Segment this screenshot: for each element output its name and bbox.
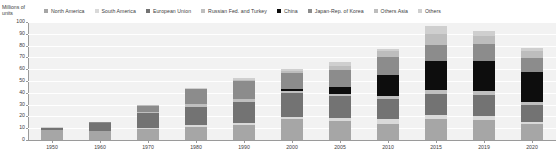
bar-stack[interactable] [473,31,495,140]
y-tick-label: 30 [1,102,25,107]
bar-segment [425,26,447,34]
x-tick-label: 1990 [238,144,250,150]
y-tick-label: 20 [1,114,25,119]
bar-segment [41,130,63,140]
y-axis-title: Millions of units [2,4,42,17]
bar-stack[interactable] [521,48,543,140]
y-tick-label: 50 [1,78,25,83]
x-tick-mark [244,141,245,143]
bar-segment [425,34,447,45]
x-axis: 1950196019701980199020002005201020152019… [28,140,556,142]
x-tick-mark [100,141,101,143]
bar-segment [473,44,495,60]
y-tick-label: 90 [1,31,25,36]
bar-segment [137,113,159,128]
x-tick-mark [196,141,197,143]
bar-segment [89,123,111,130]
bar-segment [329,87,351,94]
bar-segment [473,120,495,140]
x-tick-mark [52,141,53,143]
legend-item[interactable]: Others Asia [374,8,408,14]
bar-segment [329,96,351,117]
legend-item[interactable]: Others [418,8,441,14]
bar-segment [473,36,495,45]
bar-segment [377,99,399,119]
bar-segment [425,94,447,115]
x-tick-mark [484,141,485,143]
x-tick-label: 1970 [142,144,154,150]
bar-segment [281,119,303,140]
x-tick-label: 2000 [286,144,298,150]
bar-segment [425,61,447,90]
chart-root: Millions of units North AmericaSouth Ame… [0,0,558,158]
bar-segment [377,75,399,97]
legend-item[interactable]: South America [95,8,136,14]
bar-segment [377,51,399,58]
bar-stack[interactable] [233,78,255,140]
bar-series-group [28,22,556,140]
bar-stack[interactable] [185,88,207,140]
legend-item-label: Japan-Rep. of Korea [315,8,364,14]
legend-swatch-icon [146,9,150,13]
legend-item-label: Others [425,8,441,14]
y-tick-label: 80 [1,43,25,48]
x-tick-mark [388,141,389,143]
bar-segment [521,105,543,122]
bar-segment [185,89,207,104]
bar-segment [521,58,543,72]
chart-legend: North AmericaSouth AmericaEuropean Union… [44,4,556,18]
legend-item[interactable]: North America [44,8,85,14]
bar-stack[interactable] [137,105,159,140]
bar-stack[interactable] [425,26,447,140]
bar-segment [425,45,447,61]
x-tick-label: 1950 [46,144,58,150]
x-tick-label: 2015 [430,144,442,150]
x-tick-label: 2020 [526,144,538,150]
y-axis-title-line2: units [2,10,42,16]
bar-segment [521,124,543,140]
y-tick-label: 70 [1,55,25,60]
x-tick-mark [292,141,293,143]
bar-segment [185,127,207,140]
plot-area: 0102030405060708090100 [28,22,556,140]
legend-item-label: Others Asia [381,8,408,14]
legend-item[interactable]: China [277,8,298,14]
bar-segment [329,121,351,140]
legend-item-label: North America [51,8,85,14]
legend-swatch-icon [44,9,48,13]
x-tick-label: 2019 [478,144,490,150]
bar-segment [377,57,399,74]
x-tick-mark [532,141,533,143]
bar-segment [281,93,303,117]
bar-stack[interactable] [41,127,63,140]
bar-stack[interactable] [89,122,111,140]
legend-item[interactable]: Japan-Rep. of Korea [308,8,364,14]
x-tick-label: 2005 [334,144,346,150]
legend-item[interactable]: European Union [146,8,191,14]
bar-segment [281,73,303,89]
y-tick-label: 0 [1,137,25,142]
bar-stack[interactable] [329,62,351,140]
bar-segment [473,95,495,117]
bar-segment [185,107,207,125]
legend-item-label: China [284,8,298,14]
x-tick-mark [148,141,149,143]
bar-stack[interactable] [281,69,303,140]
bar-stack[interactable] [377,49,399,140]
bar-segment [233,125,255,140]
bar-segment [521,51,543,58]
bar-segment [329,70,351,87]
legend-swatch-icon [277,9,281,13]
legend-swatch-icon [95,9,99,13]
legend-item-label: Russian Fed. and Turkey [208,8,267,14]
x-tick-mark [436,141,437,143]
x-tick-label: 1980 [190,144,202,150]
legend-item-label: South America [102,8,136,14]
y-tick-label: 100 [1,19,25,24]
bar-segment [521,72,543,102]
y-tick-label: 40 [1,90,25,95]
x-tick-mark [340,141,341,143]
y-tick-label: 10 [1,126,25,131]
legend-item[interactable]: Russian Fed. and Turkey [201,8,267,14]
bar-segment [425,119,447,140]
